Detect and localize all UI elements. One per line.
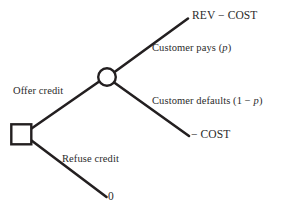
branch-label-refuse-credit: Refuse credit [62, 154, 119, 165]
customer-defaults-paren-close: ) [259, 95, 263, 106]
customer-defaults-text: Customer defaults (1 − [152, 95, 254, 106]
payoff-label-minus-cost: − COST [191, 129, 230, 141]
payoff-label-rev-minus-cost: REV − COST [192, 10, 257, 22]
branch-label-customer-pays: Customer pays (p) [152, 43, 231, 54]
branch-label-customer-defaults: Customer defaults (1 − p) [152, 96, 263, 107]
branch-line-customer-defaults [115, 83, 189, 136]
branch-label-offer-credit: Offer credit [13, 86, 63, 97]
chance-node-circle[interactable] [98, 68, 116, 86]
decision-node-square[interactable] [11, 124, 31, 144]
decision-tree-figure: Offer credit Refuse credit Customer pays… [0, 0, 289, 211]
payoff-label-zero: 0 [108, 191, 114, 203]
customer-pays-text: Customer pays ( [152, 42, 222, 53]
branch-line-refuse-credit [32, 141, 107, 198]
customer-pays-paren-close: ) [228, 42, 232, 53]
